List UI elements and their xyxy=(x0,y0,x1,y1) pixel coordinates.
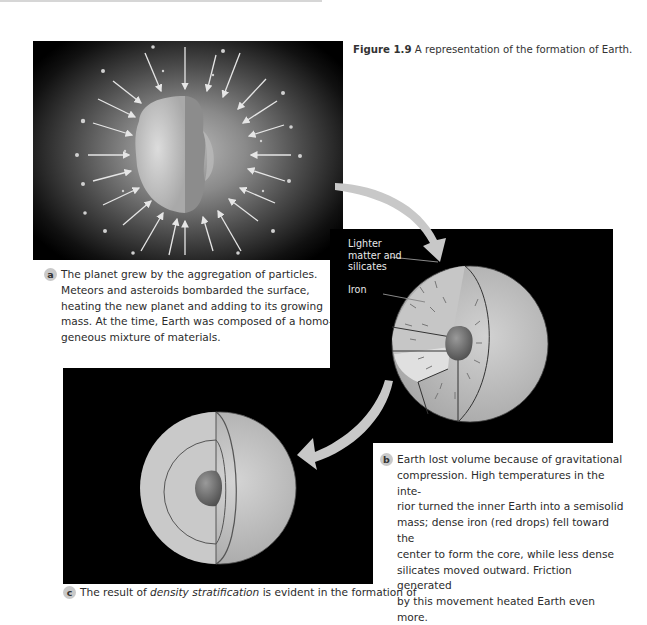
panel-c-badge: c xyxy=(63,586,76,599)
top-rule xyxy=(0,0,322,2)
text-line: geneous mixture of materials. xyxy=(44,330,334,346)
panel-a-description: aThe planet grew by the aggregation of p… xyxy=(44,267,334,346)
figure-caption-text: A representation of the formation of Ear… xyxy=(415,44,633,55)
panel-b-description: bEarth lost volume because of gravitatio… xyxy=(380,452,625,625)
panel-a-badge: a xyxy=(44,268,57,281)
figure-caption: Figure 1.9 A representation of the forma… xyxy=(353,44,632,55)
text-line: mass; dense iron (red drops) fell toward… xyxy=(380,515,625,547)
italic-term: density stratification xyxy=(150,586,259,598)
panel-c-stratified-illustration xyxy=(63,368,373,584)
label-iron: Iron xyxy=(348,284,367,296)
text-line: center to form the core, while less dens… xyxy=(380,547,625,563)
panel-a-accretion-illustration xyxy=(33,41,343,260)
figure-label: Figure 1.9 xyxy=(353,44,412,55)
text-line: by this movement heated Earth even more. xyxy=(380,594,625,625)
text-line: compression. High temperatures in the in… xyxy=(380,468,625,500)
accretion-planet-diagram xyxy=(33,41,343,260)
text-line: The planet grew by the aggregation of pa… xyxy=(61,268,317,280)
text-segment: is evident in the formation of xyxy=(259,586,416,598)
stratified-earth-diagram xyxy=(63,368,373,584)
text-line: Earth lost volume because of gravitation… xyxy=(397,453,622,465)
label-lighter-matter: Lighter matter and silicates xyxy=(348,238,402,273)
panel-b-badge: b xyxy=(380,453,393,466)
text-line: mass. At the time, Earth was composed of… xyxy=(44,314,334,330)
text-segment: The result of xyxy=(80,586,150,598)
text-line: rior turned the inner Earth into a semis… xyxy=(380,499,625,515)
panel-c-description: cThe result of density stratification is… xyxy=(63,585,403,601)
text-line: heating the new planet and adding to its… xyxy=(44,299,334,315)
text-line: Meteors and asteroids bombarded the surf… xyxy=(44,283,334,299)
